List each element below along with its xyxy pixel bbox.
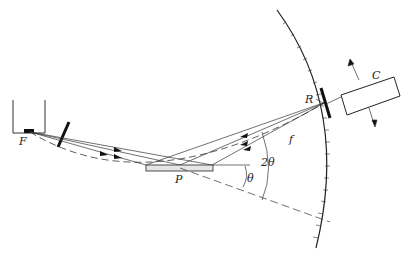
focusing-circle bbox=[30, 102, 326, 162]
label-specimen: P bbox=[174, 173, 183, 186]
incident-beam-extension bbox=[180, 168, 330, 222]
label-focusing-circle: f bbox=[288, 133, 295, 146]
specimen bbox=[146, 165, 213, 171]
label-two-theta: 2θ bbox=[260, 156, 275, 169]
counter bbox=[326, 77, 400, 115]
ray-arrowheads bbox=[100, 133, 251, 159]
incident-rays bbox=[30, 132, 212, 165]
diffracted-rays bbox=[146, 102, 326, 165]
divergence-slit bbox=[58, 122, 69, 147]
label-counter: C bbox=[372, 69, 381, 82]
x-ray-tube-housing bbox=[13, 100, 45, 133]
goniometer-scale bbox=[277, 10, 327, 248]
label-receiving-slit: R bbox=[304, 93, 313, 106]
label-source: F bbox=[18, 135, 27, 148]
scale-ticks bbox=[283, 22, 330, 238]
diffractometer-diagram: F f P θ 2θ bbox=[0, 0, 406, 258]
label-theta: θ bbox=[247, 172, 254, 185]
